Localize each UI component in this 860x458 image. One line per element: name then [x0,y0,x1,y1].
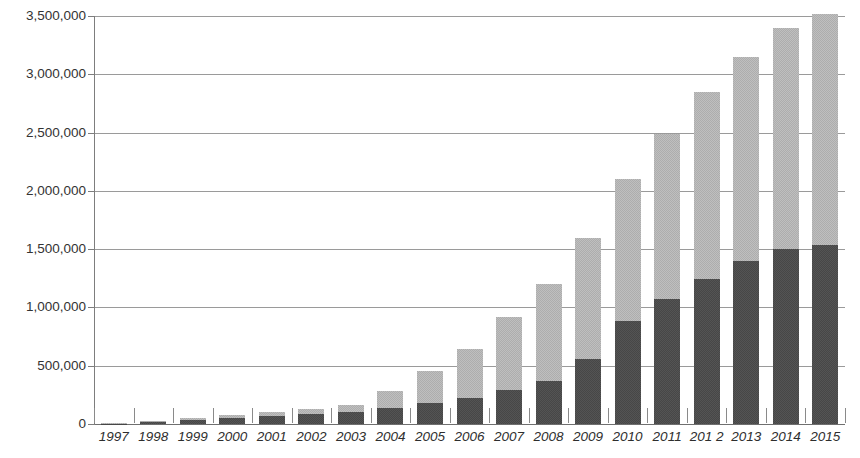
x-tick-mark [371,408,372,423]
bar-segment-lower [694,279,720,424]
bar-segment-upper [733,57,759,261]
y-axis-labels: 3,500,0003,000,0002,500,0002,000,0001,50… [0,0,86,458]
x-tick-mark [213,408,214,423]
bar-segment-upper [615,179,641,321]
y-tick-label: 0 [2,417,86,431]
bar-segment-lower [140,421,166,424]
x-tick-label: 2015 [795,430,855,444]
bar-segment-lower [180,420,206,424]
bar-segment-lower [773,249,799,424]
bar-segment-upper [496,317,522,390]
y-tick-mark [88,191,95,192]
bar-segment-lower [733,261,759,424]
y-tick-label: 1,500,000 [2,242,86,256]
bar-segment-lower [812,245,838,424]
bar-segment-upper [457,349,483,397]
y-tick-label: 3,000,000 [2,67,86,81]
x-tick-mark [845,408,846,423]
x-tick-mark [687,408,688,423]
bar-segment-upper [654,134,680,299]
chart-title [0,0,860,5]
y-tick-mark [88,366,95,367]
bar-segment-upper [377,391,403,407]
y-tick-label: 2,000,000 [2,184,86,198]
y-tick-label: 2,500,000 [2,126,86,140]
x-tick-mark [647,408,648,423]
plot-area [94,16,845,424]
bar-segment-upper [536,284,562,382]
y-tick-label: 3,500,000 [2,9,86,23]
y-tick-mark [88,307,95,308]
x-tick-mark [292,408,293,423]
x-tick-mark [331,408,332,423]
gridline-0 [94,424,845,425]
bar-segment-upper [180,418,206,420]
bar-segment-lower [536,381,562,424]
y-tick-mark [88,249,95,250]
x-tick-mark [805,408,806,423]
y-tick-label: 1,000,000 [2,300,86,314]
x-axis-ticks [94,408,845,417]
x-tick-mark [529,408,530,423]
bar-segment-lower [259,416,285,424]
x-tick-mark [726,408,727,423]
y-tick-mark [88,16,95,17]
x-tick-mark [252,408,253,423]
gridline-3500000 [94,16,845,17]
bar-segment-upper [812,14,838,245]
x-tick-mark [608,408,609,423]
x-tick-mark [450,408,451,423]
bar-segment-lower [219,418,245,424]
bar-segment-upper [417,371,443,403]
bar-segment-upper [694,92,720,279]
y-tick-mark [88,74,95,75]
bar-segment-upper [773,28,799,249]
x-tick-mark [568,408,569,423]
y-tick-mark [88,424,95,425]
x-tick-mark [766,408,767,423]
bar-segment-lower [654,299,680,424]
x-tick-mark [134,408,135,423]
x-tick-mark [94,408,95,423]
x-tick-mark [410,408,411,423]
x-axis-labels: 1997199819992000200120022003200420052006… [94,430,845,452]
y-tick-mark [88,133,95,134]
x-tick-mark [173,408,174,423]
bar-segment-upper [140,421,166,422]
x-tick-mark [489,408,490,423]
stacked-bar-chart: 3,500,0003,000,0002,500,0002,000,0001,50… [0,0,860,458]
y-tick-label: 500,000 [2,359,86,373]
bar-segment-upper [575,238,601,359]
